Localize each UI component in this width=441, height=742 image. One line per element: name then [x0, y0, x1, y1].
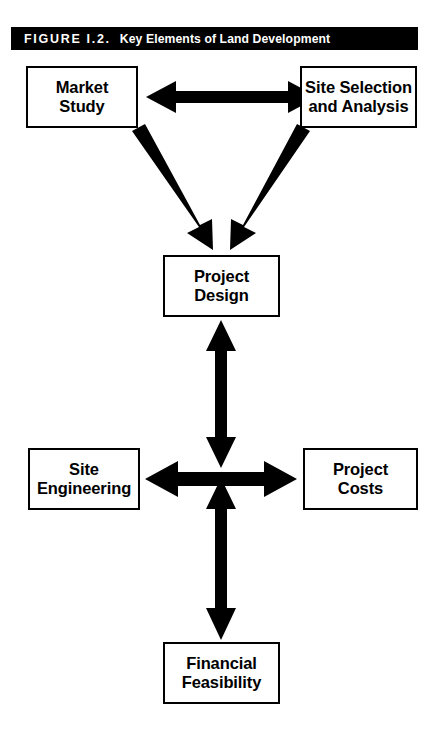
figure-title-banner: FIGURE I.2. Key Elements of Land Develop… [11, 27, 418, 50]
node-project-design-line1: Project [194, 267, 249, 286]
node-market-study-line2: Study [56, 97, 109, 116]
node-site-engineering-line2: Engineering [37, 479, 131, 498]
node-project-design-line2: Design [194, 286, 249, 305]
node-project-costs-line2: Costs [333, 479, 388, 498]
figure-number-label: FIGURE I.2. [24, 32, 111, 46]
node-market-study: Market Study [26, 66, 138, 128]
node-site-engineering-line1: Site [37, 460, 131, 479]
node-project-costs: Project Costs [303, 448, 418, 510]
node-site-selection-line1: Site Selection [305, 78, 412, 97]
node-project-design: Project Design [163, 255, 280, 317]
arrow-site-engineering-to-project-costs [145, 461, 297, 497]
node-market-study-line1: Market [56, 78, 109, 97]
arrow-center-to-financial-feasibility [206, 478, 236, 640]
figure-container: FIGURE I.2. Key Elements of Land Develop… [0, 0, 441, 742]
node-financial-feasibility-line2: Feasibility [182, 673, 262, 692]
node-project-costs-line1: Project [333, 460, 388, 479]
node-financial-feasibility: Financial Feasibility [163, 642, 280, 704]
arrow-market-study-to-project-design [132, 124, 213, 250]
node-site-engineering: Site Engineering [28, 448, 140, 510]
node-financial-feasibility-line1: Financial [182, 654, 262, 673]
node-site-selection-line2: and Analysis [305, 97, 412, 116]
arrow-project-design-to-center [206, 320, 236, 468]
arrow-market-study-to-site-selection [146, 81, 318, 113]
node-site-selection: Site Selection and Analysis [300, 66, 417, 128]
arrow-site-selection-to-project-design [230, 124, 310, 250]
figure-caption: Key Elements of Land Development [120, 32, 330, 46]
